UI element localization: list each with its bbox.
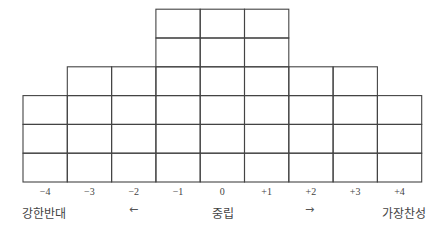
grid-cell (156, 96, 200, 125)
grid-cell (156, 38, 200, 67)
grid-cell (333, 67, 377, 96)
grid-cell (377, 96, 421, 125)
grid-cell (245, 124, 289, 153)
scale-tick: −2 (112, 186, 156, 197)
grid-cell (245, 9, 289, 38)
grid-cell (23, 153, 67, 182)
left-arrow-icon: ← (129, 203, 138, 216)
grid-cell (289, 153, 333, 182)
grid-cell (23, 124, 67, 153)
right-arrow-icon: → (305, 203, 314, 216)
grid-cell (200, 96, 244, 125)
grid-cell (333, 124, 377, 153)
grid-cell (377, 124, 421, 153)
grid-cell (333, 153, 377, 182)
grid-cell (67, 124, 111, 153)
grid-cell (67, 67, 111, 96)
grid-cell (245, 96, 289, 125)
scale-tick: −4 (23, 186, 67, 197)
scale-tick: +4 (378, 186, 422, 197)
neutral-label: 중립 (212, 204, 234, 221)
grid-cell (156, 124, 200, 153)
scale-tick: +1 (245, 186, 289, 197)
grid-cell (200, 38, 244, 67)
grid-cell (112, 96, 156, 125)
scale-tick: 0 (200, 186, 244, 197)
grid-cell (200, 124, 244, 153)
strongly-disagree-label: 강한반대 (22, 204, 66, 221)
grid-cell (112, 153, 156, 182)
scale-tick: −1 (156, 186, 200, 197)
grid-cell (156, 153, 200, 182)
scale-tick: −3 (67, 186, 111, 197)
grid-cell (156, 9, 200, 38)
grid-cell (245, 153, 289, 182)
grid-cell (112, 67, 156, 96)
grid-cell (67, 153, 111, 182)
grid-cell (289, 67, 333, 96)
grid-cell (289, 124, 333, 153)
scale-tick: +2 (289, 186, 333, 197)
grid-cell (289, 96, 333, 125)
grid-cell (112, 124, 156, 153)
grid-cell (156, 67, 200, 96)
scale-tick: +3 (333, 186, 377, 197)
grid-cell (333, 96, 377, 125)
grid-cell (200, 67, 244, 96)
grid-cell (23, 96, 67, 125)
grid-cell (377, 153, 421, 182)
grid-cell (245, 38, 289, 67)
grid-cell (200, 153, 244, 182)
grid-cell (67, 96, 111, 125)
grid-cell (200, 9, 244, 38)
grid-cell (245, 67, 289, 96)
strongly-agree-label: 가장찬성 (382, 204, 426, 221)
